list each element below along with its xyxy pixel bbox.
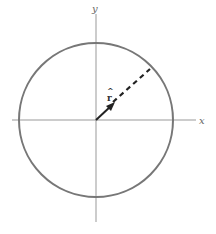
r-hat-label: r [107,93,112,103]
polar-diagram: x y ^ r [0,0,216,234]
y-axis-label: y [91,3,98,14]
x-axis-label: x [199,115,205,126]
radius-dashed-line [113,69,150,102]
